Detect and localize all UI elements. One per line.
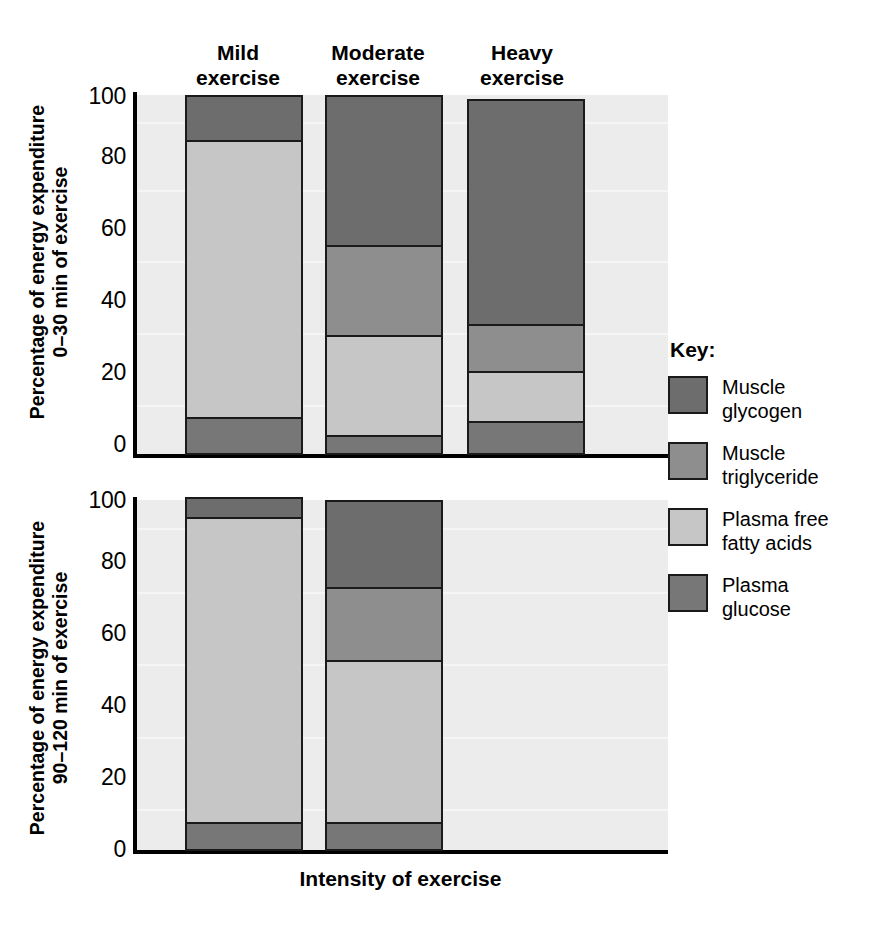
bar-segment-plasma-free-fatty-acids xyxy=(187,140,301,417)
y-axis-title-top: Percentage of energy expenditure 0–30 mi… xyxy=(26,72,72,452)
category-title-moderate: Moderate exercise xyxy=(303,40,453,90)
bar-segment-muscle-glycogen xyxy=(187,499,301,517)
legend-label-line2: glucose xyxy=(722,598,791,620)
bar-segment-muscle-glycogen xyxy=(327,97,441,245)
y-axis-title-bottom: Percentage of energy expenditure 90–120 … xyxy=(26,488,72,868)
bar-segment-plasma-glucose xyxy=(327,822,441,851)
y-tick-label: 40 xyxy=(58,692,126,719)
legend-item-muscle-triglyceride: Muscle triglyceride xyxy=(668,440,868,489)
y-axis-title-top-line2: 0–30 min of exercise xyxy=(49,167,71,358)
legend-label-muscle-glycogen: Muscle glycogen xyxy=(722,374,802,423)
bar-segment-muscle-triglyceride xyxy=(327,245,441,335)
legend-title: Key: xyxy=(670,338,868,362)
bar-segment-plasma-glucose xyxy=(469,421,583,455)
bar-segment-plasma-free-fatty-acids xyxy=(327,335,441,435)
legend-item-muscle-glycogen: Muscle glycogen xyxy=(668,374,868,423)
category-title-mild: Mild exercise xyxy=(168,40,308,90)
legend-label-line1: Muscle xyxy=(722,376,785,398)
y-axis-title-top-line1: Percentage of energy expenditure xyxy=(26,105,48,419)
legend-label-line2: fatty acids xyxy=(722,532,812,554)
y-tick-label: 100 xyxy=(58,487,126,514)
y-tick-label: 0 xyxy=(58,836,126,863)
bar-segment-plasma-glucose xyxy=(187,417,301,455)
bar-segment-muscle-glycogen xyxy=(187,97,301,140)
bar-segment-plasma-glucose xyxy=(327,435,441,455)
bar-top-moderate xyxy=(325,95,443,455)
bar-top-mild xyxy=(185,95,303,455)
bar-segment-plasma-free-fatty-acids xyxy=(187,517,301,822)
y-tick-label: 40 xyxy=(58,287,126,314)
category-title-moderate-line1: Moderate xyxy=(331,41,424,64)
legend-label-plasma-free-fatty-acids: Plasma free fatty acids xyxy=(722,506,829,555)
y-tick-label: 80 xyxy=(58,143,126,170)
bar-bottom-moderate xyxy=(325,500,443,851)
legend-swatch-plasma-free-fatty-acids xyxy=(668,508,708,546)
legend-label-plasma-glucose: Plasma glucose xyxy=(722,572,791,621)
bar-segment-plasma-free-fatty-acids xyxy=(469,371,583,421)
category-title-heavy: Heavy exercise xyxy=(452,40,592,90)
y-tick-label: 100 xyxy=(58,83,126,110)
chart-panel-bottom: Percentage of energy expenditure 90–120 … xyxy=(0,468,668,930)
y-tick-label: 60 xyxy=(58,620,126,647)
legend-label-line2: triglyceride xyxy=(722,466,819,488)
legend-label-line1: Muscle xyxy=(722,442,785,464)
legend-label-line1: Plasma xyxy=(722,574,789,596)
legend-item-plasma-glucose: Plasma glucose xyxy=(668,572,868,621)
x-axis-title: Intensity of exercise xyxy=(133,867,668,891)
bar-segment-muscle-triglyceride xyxy=(469,324,583,371)
bar-top-heavy xyxy=(467,99,585,455)
chart-panel-top: Percentage of energy expenditure 0–30 mi… xyxy=(0,0,668,468)
legend-label-line1: Plasma free xyxy=(722,508,829,530)
y-axis-title-bottom-line2: 90–120 min of exercise xyxy=(49,572,71,784)
legend-label-line2: glycogen xyxy=(722,400,802,422)
legend-swatch-muscle-triglyceride xyxy=(668,442,708,480)
category-title-mild-line1: Mild xyxy=(217,41,259,64)
y-tick-label: 60 xyxy=(58,215,126,242)
y-tick-label: 20 xyxy=(58,359,126,386)
bar-segment-plasma-free-fatty-acids xyxy=(327,660,441,822)
bar-bottom-mild xyxy=(185,497,303,851)
category-title-heavy-line2: exercise xyxy=(480,66,564,89)
figure-root: Percentage of energy expenditure 0–30 mi… xyxy=(0,0,871,930)
y-axis-title-bottom-line1: Percentage of energy expenditure xyxy=(26,521,48,835)
category-title-moderate-line2: exercise xyxy=(336,66,420,89)
bar-segment-muscle-triglyceride xyxy=(327,587,441,660)
legend-label-muscle-triglyceride: Muscle triglyceride xyxy=(722,440,819,489)
y-tick-label: 20 xyxy=(58,764,126,791)
legend: Key: Muscle glycogen Muscle triglyceride… xyxy=(668,338,868,638)
legend-item-plasma-free-fatty-acids: Plasma free fatty acids xyxy=(668,506,868,555)
bar-segment-muscle-glycogen xyxy=(327,502,441,587)
category-title-heavy-line1: Heavy xyxy=(491,41,553,64)
bar-segment-plasma-glucose xyxy=(187,822,301,851)
category-title-mild-line2: exercise xyxy=(196,66,280,89)
legend-swatch-plasma-glucose xyxy=(668,574,708,612)
bar-segment-muscle-glycogen xyxy=(469,101,583,324)
y-tick-label: 80 xyxy=(58,548,126,575)
y-axis-line-top xyxy=(133,92,137,458)
y-tick-label: 0 xyxy=(58,431,126,458)
legend-swatch-muscle-glycogen xyxy=(668,376,708,414)
y-axis-line-bottom xyxy=(133,497,137,854)
